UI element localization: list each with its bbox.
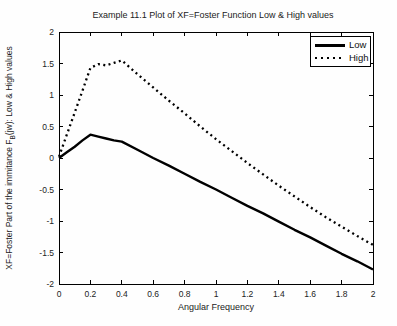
high-line-sample <box>315 57 345 60</box>
y-tick-label: -1 <box>46 216 54 226</box>
chart-title: Example 11.1 Plot of XF=Foster Function … <box>92 10 333 20</box>
x-tick-label: 0.4 <box>116 289 128 299</box>
x-tick-label: 1.6 <box>304 289 316 299</box>
low-line-sample <box>315 44 345 47</box>
x-tick-label: 0.6 <box>147 289 159 299</box>
x-tick-label: 0.8 <box>179 289 191 299</box>
y-tick-label: 0 <box>49 153 54 163</box>
y-axis-label: XF=Foster Part of the immitance FB(jw): … <box>4 46 16 269</box>
x-tick-label: 0 <box>57 289 62 299</box>
x-tick-label: 1 <box>214 289 219 299</box>
figure: 00.20.40.60.811.21.41.61.8221.510.50-0.5… <box>0 0 397 326</box>
legend-label-low: Low <box>349 40 366 50</box>
legend-entry-high: High <box>315 53 370 63</box>
low-series-line <box>59 135 373 270</box>
x-tick-label: 1.8 <box>336 289 348 299</box>
y-axis-label-subscript: B <box>9 135 16 139</box>
x-tick-label: 0.2 <box>84 289 96 299</box>
x-tick-label: 2 <box>371 289 376 299</box>
y-tick-label: 2 <box>49 27 54 37</box>
high-series-line <box>59 60 373 245</box>
legend-entry-low: Low <box>315 40 370 50</box>
x-tick-label: 1.4 <box>273 289 285 299</box>
x-axis-label: Angular Frequency <box>178 302 254 312</box>
legend: Low High <box>310 36 371 67</box>
y-axis-label-suffix: (jw): Low & High values <box>4 46 14 135</box>
y-tick-label: -1.5 <box>39 248 54 258</box>
y-tick-label: 0.5 <box>42 122 54 132</box>
y-tick-label: -2 <box>46 279 54 289</box>
x-tick-label: 1.2 <box>241 289 253 299</box>
y-tick-label: -0.5 <box>39 185 54 195</box>
legend-label-high: High <box>349 53 369 63</box>
y-tick-label: 1.5 <box>42 59 54 69</box>
y-axis-label-prefix: XF=Foster Part of the immitance F <box>4 140 14 270</box>
y-tick-label: 1 <box>49 90 54 100</box>
